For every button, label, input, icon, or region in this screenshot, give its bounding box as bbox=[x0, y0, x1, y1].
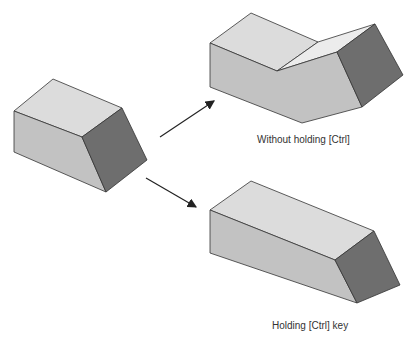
arrow-to-straight bbox=[146, 178, 196, 207]
arrow-to-bent bbox=[160, 101, 214, 137]
caption-with-ctrl: Holding [Ctrl] key bbox=[272, 320, 348, 331]
caption-without-ctrl: Without holding [Ctrl] bbox=[257, 134, 350, 145]
extended-bent-block bbox=[210, 13, 403, 123]
diagram-canvas bbox=[0, 0, 415, 343]
extended-straight-block bbox=[210, 181, 400, 303]
original-block bbox=[14, 79, 147, 192]
